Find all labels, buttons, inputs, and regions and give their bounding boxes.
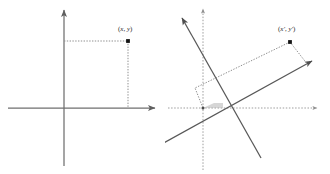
x-prime-axis: [165, 61, 312, 160]
point-marker: [288, 40, 292, 44]
angle-marker: [203, 103, 223, 108]
figure-root: (x, y): [0, 0, 330, 174]
y-prime-axis: [182, 18, 261, 158]
parallelogram-edge-origin-to-y-prime-foot: [195, 88, 203, 108]
panel-rotated-axes: (x', y'): [165, 0, 330, 174]
point-label: (x', y'): [278, 25, 296, 33]
point-marker: [126, 39, 130, 43]
point-label: (x, y): [118, 25, 133, 33]
point-label-close: ): [293, 25, 296, 33]
panel-original-axes: (x, y): [0, 0, 165, 174]
origin-marker: [202, 107, 205, 110]
rotated-axes-svg: (x', y'): [165, 0, 330, 174]
original-axes-svg: (x, y): [0, 0, 165, 174]
point-label-close: ): [130, 25, 133, 33]
projection-line-to-x-prime: [290, 42, 308, 65]
